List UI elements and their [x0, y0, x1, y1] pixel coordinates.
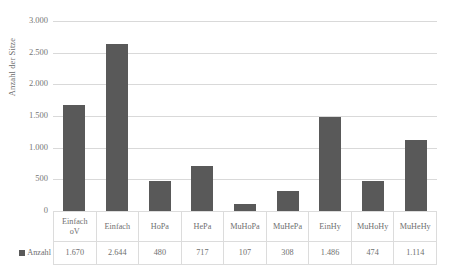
table-corner-cell — [0, 212, 54, 242]
y-tick-label-2000: 2.000 — [4, 78, 48, 88]
bar-Einfach — [106, 44, 128, 211]
bar-Einfach oV — [63, 105, 85, 211]
y-axis-title: Anzahl der Sitze — [7, 7, 17, 127]
bars-layer — [53, 21, 437, 211]
value-cell-1: 2.644 — [96, 242, 139, 265]
bar-chart: Anzahl der Sitze 05001.0001.5002.0002.50… — [0, 0, 451, 277]
category-label-line1: EinHy — [309, 222, 351, 231]
bar-HoPa — [149, 181, 171, 211]
table-row-categories: EinfachoVEinfachHoPaHePaMuHoPaMuHePaEinH… — [0, 212, 437, 242]
bar-HePa — [191, 166, 213, 211]
category-label-line1: MuHeHy — [394, 222, 436, 231]
category-cell-1: Einfach — [96, 212, 139, 242]
y-tick-label-2500: 2.500 — [4, 47, 48, 57]
category-cell-4: MuHoPa — [224, 212, 267, 242]
bar-EinHy — [319, 117, 341, 211]
table-row-values: Anzahl 1.6702.6444807171073081.4864741.1… — [0, 242, 437, 265]
category-cell-8: MuHeHy — [394, 212, 437, 242]
category-label-line2: oV — [54, 227, 96, 236]
value-cell-2: 480 — [139, 242, 182, 265]
category-cell-2: HoPa — [139, 212, 182, 242]
data-table: EinfachoVEinfachHoPaHePaMuHoPaMuHePaEinH… — [0, 211, 437, 265]
category-label-line1: Einfach — [97, 222, 139, 231]
category-label-line1: MuHoHy — [352, 222, 394, 231]
y-tick-label-3000: 3.000 — [4, 15, 48, 25]
category-cell-5: MuHePa — [266, 212, 309, 242]
category-cell-0: EinfachoV — [54, 212, 97, 242]
category-cell-7: MuHoHy — [351, 212, 394, 242]
bar-MuHePa — [277, 191, 299, 211]
legend-entry: Anzahl — [0, 242, 54, 265]
category-cell-3: HePa — [181, 212, 224, 242]
legend-label: Anzahl — [27, 248, 51, 257]
y-tick-label-1000: 1.000 — [4, 142, 48, 152]
value-cell-6: 1.486 — [309, 242, 352, 265]
category-label-line1: Einfach — [54, 217, 96, 226]
category-label-line1: HoPa — [139, 222, 181, 231]
category-label-line1: HePa — [182, 222, 224, 231]
bar-MuHoPa — [234, 204, 256, 211]
category-label-line1: MuHoPa — [224, 222, 266, 231]
y-tick-label-1500: 1.500 — [4, 110, 48, 120]
plot-area: 05001.0001.5002.0002.5003.000 — [53, 21, 437, 211]
category-label-line1: MuHePa — [267, 222, 309, 231]
value-cell-4: 107 — [224, 242, 267, 265]
category-cell-6: EinHy — [309, 212, 352, 242]
legend-square-icon — [19, 250, 25, 256]
bar-MuHoHy — [362, 181, 384, 211]
value-cell-5: 308 — [266, 242, 309, 265]
value-cell-0: 1.670 — [54, 242, 97, 265]
bar-MuHeHy — [405, 140, 427, 211]
value-cell-8: 1.114 — [394, 242, 437, 265]
value-cell-7: 474 — [351, 242, 394, 265]
value-cell-3: 717 — [181, 242, 224, 265]
y-tick-label-500: 500 — [4, 173, 48, 183]
